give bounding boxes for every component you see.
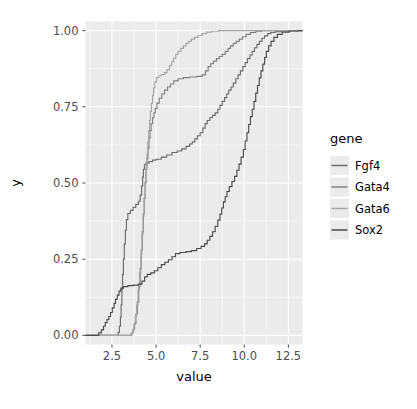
x-tick-label: 10.0 — [231, 349, 257, 363]
legend-title: gene — [330, 131, 363, 146]
legend-label-gata4: Gata4 — [355, 180, 390, 194]
legend-item-sox2[interactable]: Sox2 — [330, 221, 383, 240]
x-axis-title: value — [176, 369, 212, 384]
legend-item-fgf4[interactable]: Fgf4 — [330, 156, 380, 175]
y-tick-label: 1.00 — [53, 24, 79, 38]
y-tick-label: 0.00 — [53, 328, 79, 342]
legend-label-gata6: Gata6 — [355, 202, 390, 216]
y-axis-title: y — [8, 179, 23, 187]
x-tick-label: 2.5 — [103, 349, 121, 363]
legend-label-fgf4: Fgf4 — [355, 159, 380, 173]
x-tick-label: 7.5 — [191, 349, 209, 363]
y-tick-label: 0.75 — [53, 100, 79, 114]
ecdf-plot-root: 2.55.07.510.012.50.000.250.500.751.00val… — [0, 0, 417, 409]
y-tick-label: 0.50 — [53, 176, 79, 190]
y-tick-label: 0.25 — [53, 252, 79, 266]
legend-item-gata4[interactable]: Gata4 — [330, 178, 390, 197]
legend-label-sox2: Sox2 — [355, 223, 383, 237]
x-tick-label: 12.5 — [276, 349, 302, 363]
ecdf-chart-svg: 2.55.07.510.012.50.000.250.500.751.00val… — [0, 0, 417, 409]
x-tick-label: 5.0 — [147, 349, 165, 363]
legend-item-gata6[interactable]: Gata6 — [330, 199, 390, 218]
